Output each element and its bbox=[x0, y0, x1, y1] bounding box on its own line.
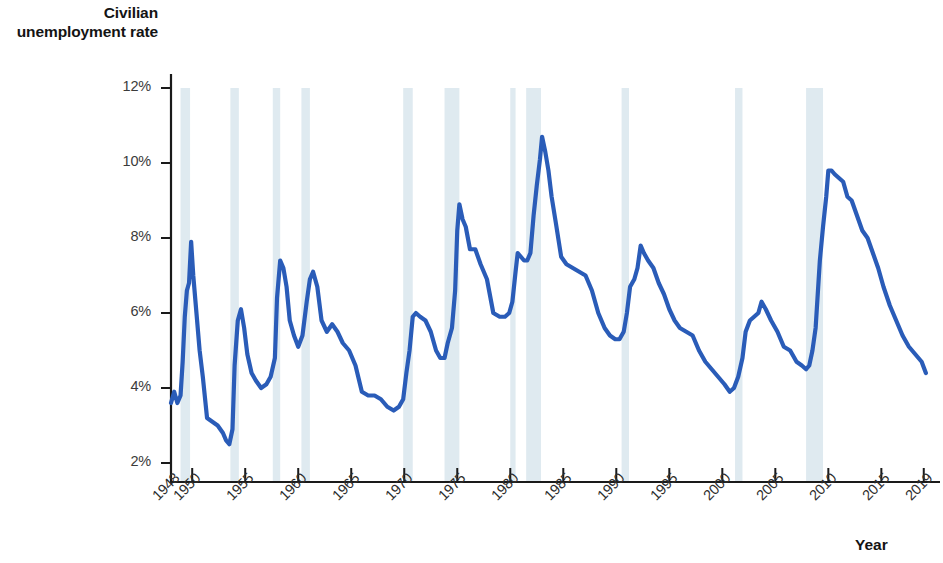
unemployment-rate-chart: Civilian unemployment rate Year 2%4%6%8%… bbox=[0, 0, 943, 563]
y-tick-label: 10% bbox=[103, 153, 151, 169]
y-tick-label: 8% bbox=[103, 228, 151, 244]
recession-band bbox=[403, 88, 413, 482]
recession-band bbox=[735, 88, 742, 482]
recession-band bbox=[526, 88, 541, 482]
y-tick-label: 2% bbox=[103, 453, 151, 469]
recession-band bbox=[622, 88, 629, 482]
y-tick-label: 12% bbox=[103, 78, 151, 94]
y-tick-label: 6% bbox=[103, 303, 151, 319]
y-tick-label: 4% bbox=[103, 378, 151, 394]
recession-band bbox=[806, 88, 823, 482]
